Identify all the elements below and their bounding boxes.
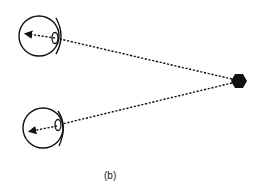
top-eye (19, 16, 232, 79)
bottom-eyeball-icon (23, 108, 63, 148)
bottom-inner-ray-arrow (32, 126, 57, 131)
top-inner-ray-arrow (28, 34, 55, 38)
object-hexagon-icon (231, 74, 247, 88)
bottom-lens-icon (55, 120, 61, 131)
figure-caption: (b) (104, 170, 116, 181)
optics-diagram (0, 0, 257, 185)
top-ray-line (60, 39, 232, 79)
bottom-ray-line (62, 83, 232, 124)
bottom-eye (23, 83, 232, 148)
